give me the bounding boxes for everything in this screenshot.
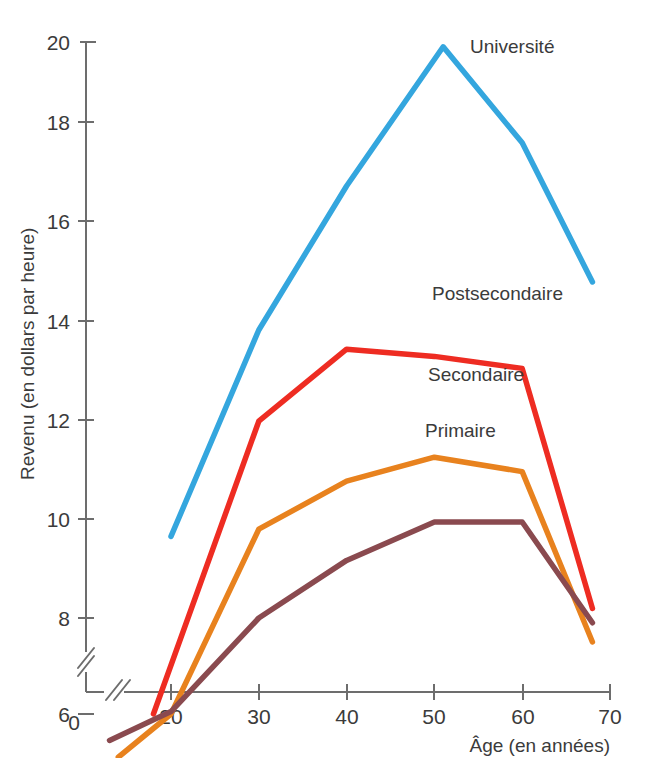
- series-label-postsecondaire: Postsecondaire: [432, 283, 563, 304]
- y-tick-label-6: 6: [58, 703, 70, 726]
- y-tick-labels: 20 18 16 14 12 10 8 6: [47, 31, 71, 630]
- y-tick-label-16: 16: [47, 210, 70, 233]
- series-layer: [110, 47, 593, 757]
- y-axis: [78, 42, 94, 692]
- income-by-age-line-chart: 20 18 16 14 12 10 8 6 6 0 20 30 40 50 60…: [0, 0, 646, 758]
- x-axis-break-icon: [106, 680, 130, 700]
- x-tick-labels: 20 30 40 50 60 70: [159, 705, 621, 728]
- x-tick-label-30: 30: [247, 705, 270, 728]
- y-tick-label-10: 10: [47, 508, 70, 531]
- y-axis-title: Revenu (en dollars par heure): [17, 228, 38, 480]
- series-label-primaire: Primaire: [425, 420, 496, 441]
- y-tick-label-8: 8: [58, 607, 70, 630]
- y-tick-label-14: 14: [47, 310, 71, 333]
- x-tick-label-70: 70: [598, 705, 621, 728]
- x-tick-label-40: 40: [335, 705, 358, 728]
- y-tick-label-20: 20: [47, 31, 70, 54]
- chart-canvas: 20 18 16 14 12 10 8 6 6 0 20 30 40 50 60…: [0, 0, 646, 758]
- series-label-secondaire: Secondaire: [428, 364, 524, 385]
- y-tick-label-12: 12: [47, 409, 70, 432]
- x-tick-label-60: 60: [511, 705, 534, 728]
- y-axis-break-icon: [78, 648, 94, 676]
- x-tick-label-50: 50: [422, 705, 445, 728]
- y-tick-label-18: 18: [47, 111, 70, 134]
- series-label-universite: Université: [470, 36, 554, 57]
- x-axis-title: Âge (en années): [470, 735, 611, 756]
